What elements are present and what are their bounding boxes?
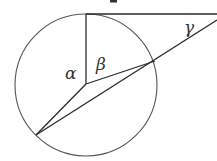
- label-alpha: α: [65, 63, 77, 83]
- radius-to-lower-left: [36, 84, 86, 135]
- secant-line: [36, 20, 217, 135]
- label-beta: β: [95, 54, 106, 74]
- geometry-diagram: α β γ: [0, 0, 217, 161]
- cropped-mark: [110, 0, 117, 3]
- label-gamma: γ: [184, 17, 195, 37]
